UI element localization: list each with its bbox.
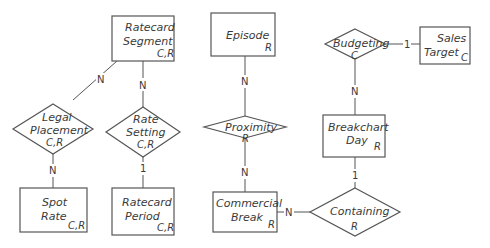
card-rate-period: 1 [140,163,146,174]
relationship-ops: C [351,50,358,61]
entity-label-line2: Day [346,134,368,147]
entity-ops: C,R [68,220,85,231]
relationship-budgeting[interactable]: Budgeting C [325,29,390,61]
relationship-ops: R [242,133,249,144]
entity-label-line1: Commercial [216,197,282,210]
entity-ops: R [268,219,275,230]
entity-label-line1: Breakchart [328,121,389,134]
entity-label-line2: Target [424,46,460,59]
entity-ops: R [374,141,381,152]
entity-label-line1: Episode [226,29,269,42]
relationship-containing[interactable]: Containing R [310,188,400,236]
line-segment-legal [73,61,117,100]
card-legal-spot: N [49,165,56,176]
relationship-label-line1: Budgeting [333,37,390,50]
relationship-proximity[interactable]: Proximity R [204,116,286,144]
entity-breakchart-day[interactable]: Breakchart Day R [323,115,389,157]
entity-ratecard-segment[interactable]: Ratecard Segment C,R [112,16,176,61]
entity-ops: R [265,42,272,53]
entity-sales-target[interactable]: Sales Target C [420,27,470,64]
card-proximity-break: N [241,167,248,178]
relationship-label-line1: Containing [330,205,389,218]
entity-episode[interactable]: Episode R [211,13,275,56]
entity-commercial-break[interactable]: Commercial Break R [213,192,282,232]
relationship-ops: R [351,221,358,232]
entity-label-line2: Break [231,211,264,224]
relationship-ops: C,R [46,137,63,148]
entity-label-line1: Spot [42,196,68,209]
entity-label-line2: Period [125,210,161,223]
card-day-containing: 1 [352,170,358,181]
entity-label-line1: Ratecard [122,196,173,209]
entity-ops: C,R [157,48,174,59]
card-break-containing: N [285,207,292,218]
entity-label-line2: Segment [123,35,173,48]
entity-label-line1: Ratecard [125,21,176,34]
card-segment-rate: N [139,80,146,91]
relationship-label-line2: Placement [30,124,89,137]
card-segment-legal: N [97,74,104,85]
entity-ops: C,R [157,222,174,233]
relationship-label-line1: Legal [42,111,72,124]
relationship-ops: C,R [137,139,154,150]
entity-label-line1: Sales [437,32,467,45]
card-episode-proximity: N [241,76,248,87]
card-budgeting-sales: 1 [404,39,410,50]
entity-label-line2: Rate [41,210,67,223]
relationship-label-line1: Proximity [225,121,278,134]
entity-ops: C [461,52,468,63]
relationship-label-line2: Setting [126,126,165,139]
card-budgeting-day: N [351,86,358,97]
entity-spot-rate[interactable]: Spot Rate C,R [20,188,87,232]
relationship-label-line1: Rate [133,113,159,126]
relationship-rate-setting[interactable]: Rate Setting C,R [106,107,180,157]
entity-ratecard-period[interactable]: Ratecard Period C,R [112,188,174,235]
relationship-legal-placement[interactable]: Legal Placement C,R [13,104,93,154]
er-diagram: N N N 1 N N 1 N 1 N Ratecard Segment C,R… [0,0,490,248]
